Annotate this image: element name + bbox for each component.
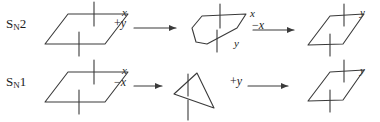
reagent-sn2-step1-operator: + — [114, 16, 121, 30]
mechanism-label-sn2: SN2 — [6, 16, 26, 32]
reagent-sn2-step2-operator: − — [252, 18, 259, 32]
substituent-label-sn2-ts-y: y — [234, 37, 239, 49]
substituent-label-sn1-product-y: y — [360, 64, 365, 76]
reagent-sn1-step1-group: x — [121, 75, 126, 89]
reagent-sn1-step1-operator: − — [114, 75, 121, 89]
reagent-sn1-step1: −x — [114, 75, 126, 90]
reagent-sn2-step1-group: y — [121, 16, 126, 30]
reaction-row-sn2: SN2 +y −x x x y y — [0, 0, 380, 60]
figure-canvas: SN2 +y −x x x y y SN1 −x +y x y — [0, 0, 380, 122]
mechanism-label-sn1: SN1 — [6, 74, 26, 90]
substituent-label-sn2-reactant-x: x — [122, 6, 127, 18]
reagent-sn2-step2-group: x — [259, 18, 264, 32]
mechanism-label-sn2-suffix: 2 — [20, 16, 27, 31]
substituent-label-sn2-product-y: y — [360, 6, 365, 18]
reaction-row-sn1: SN1 −x +y x y — [0, 58, 380, 122]
reagent-sn2-step2: −x — [252, 18, 264, 33]
mechanism-label-sn1-suffix: 1 — [20, 74, 27, 89]
reagent-sn1-step2: +y — [230, 74, 242, 89]
reagent-sn1-step2-group: y — [237, 74, 242, 88]
reagent-sn1-step2-operator: + — [230, 74, 237, 88]
reagent-sn2-step1: +y — [114, 16, 126, 31]
substituent-label-sn1-reactant-x: x — [122, 64, 127, 76]
substituent-label-sn2-ts-x: x — [250, 7, 255, 19]
